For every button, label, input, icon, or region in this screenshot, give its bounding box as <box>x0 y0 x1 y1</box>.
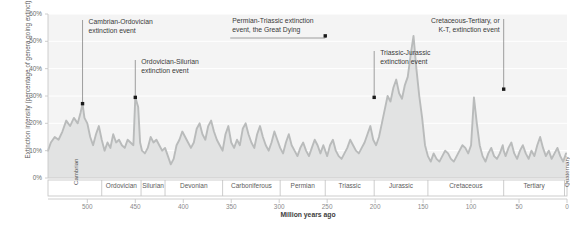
period-label-carboniferous: Carboniferous <box>223 181 281 190</box>
y-tick-label: 30% <box>16 92 42 99</box>
period-label-silurian: Silurian <box>141 181 165 190</box>
x-tick-label: 150 <box>408 203 438 210</box>
period-label-ordovician: Ordovician <box>102 181 141 190</box>
y-tick-label: 0% <box>16 174 42 181</box>
period-label-cambrian: Cambrian <box>71 150 80 194</box>
period-label-triassic: Triassic <box>325 181 374 190</box>
period-label-devonian: Devonian <box>165 181 223 190</box>
annotation-triassic-jurassic: Triassic-Jurassic extinction event <box>380 49 500 66</box>
period-label-permian: Permian <box>280 181 325 190</box>
y-tick-label: 40% <box>16 65 42 72</box>
period-label-jurassic: Jurassic <box>374 181 428 190</box>
extinction-intensity-chart: Extinction intensity (percentage of gene… <box>0 0 583 229</box>
x-tick-label: 100 <box>456 203 486 210</box>
annotation-cretaceous-tertiary: Cretaceous-Tertiary, or K-T, extinction … <box>392 17 500 34</box>
annotation-ordovician-silurian: Ordovician-Silurian extinction event <box>141 58 261 75</box>
x-tick-label: 300 <box>264 203 294 210</box>
y-tick-label: 20% <box>16 119 42 126</box>
x-tick-label: 50 <box>504 203 534 210</box>
x-tick-label: 400 <box>168 203 198 210</box>
x-tick-label: 350 <box>216 203 246 210</box>
chart-canvas <box>0 0 583 229</box>
annotation-cambrian-ordovician: Cambrian-Ordovician extinction event <box>89 18 209 35</box>
y-tick-label: 10% <box>16 147 42 154</box>
x-tick-label: 450 <box>120 203 150 210</box>
x-tick-label: 200 <box>360 203 390 210</box>
x-tick-label: 0 <box>552 203 582 210</box>
y-tick-label: 50% <box>16 37 42 44</box>
y-tick-label: 60% <box>16 10 42 17</box>
x-tick-label: 500 <box>72 203 102 210</box>
period-label-tertiary: Tertiary <box>504 181 565 190</box>
annotation-permian-triassic: Permian-Triassic extinction event, the G… <box>232 17 342 34</box>
x-tick-label: 250 <box>312 203 342 210</box>
period-label-cretaceous: Cretaceous <box>428 181 504 190</box>
period-label-quaternary: Quaternary <box>562 150 571 194</box>
